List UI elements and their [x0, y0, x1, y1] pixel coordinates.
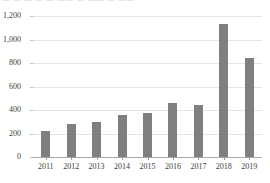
bar: [219, 24, 228, 157]
bar-chart: — — — — — —— — —— — —— 02004006008001,00…: [0, 0, 270, 183]
bar: [245, 58, 254, 157]
x-tick-mark: [122, 157, 123, 160]
x-tick-label: 2011: [33, 162, 59, 171]
bar: [41, 131, 50, 157]
x-tick-label: 2015: [135, 162, 161, 171]
y-tick-label: 1,200: [0, 12, 21, 20]
y-tick-label: 400: [0, 106, 21, 114]
y-tick-label: 600: [0, 83, 21, 91]
x-tick-label: 2016: [160, 162, 186, 171]
x-tick-label: 2012: [58, 162, 84, 171]
y-tick-label: 1,000: [0, 36, 21, 44]
bar: [118, 115, 127, 157]
x-tick-mark: [148, 157, 149, 160]
y-tick-mark: [30, 157, 33, 158]
x-tick-mark: [249, 157, 250, 160]
bar: [67, 124, 76, 157]
x-tick-label: 2013: [84, 162, 110, 171]
y-tick-label: 800: [0, 59, 21, 67]
x-tick-mark: [71, 157, 72, 160]
x-tick-mark: [97, 157, 98, 160]
x-tick-mark: [198, 157, 199, 160]
cropped-header-artifact: — — — — — —— — —— — ——: [0, 0, 270, 7]
x-tick-label: 2019: [236, 162, 262, 171]
plot-area: 02004006008001,0001,200 2011201220132014…: [33, 16, 262, 157]
y-tick-label: 200: [0, 130, 21, 138]
y-tick-label: 0: [0, 153, 21, 161]
cropped-header-text: — — — — — —— — —— — ——: [0, 0, 270, 4]
bar: [92, 122, 101, 157]
x-tick-label: 2017: [185, 162, 211, 171]
bar: [143, 113, 152, 157]
x-tick-mark: [46, 157, 47, 160]
bar: [194, 105, 203, 157]
x-tick-mark: [173, 157, 174, 160]
x-tick-label: 2014: [109, 162, 135, 171]
bar: [168, 103, 177, 157]
x-tick-label: 2018: [211, 162, 237, 171]
x-tick-mark: [224, 157, 225, 160]
bars: [33, 16, 262, 157]
